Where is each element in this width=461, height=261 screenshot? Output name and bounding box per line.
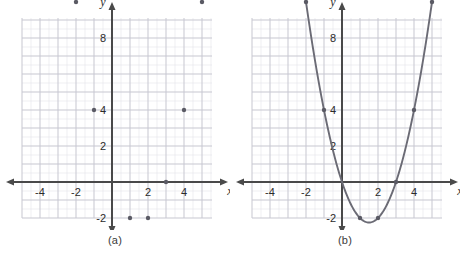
x-tick-label: 4 (411, 186, 417, 198)
data-point-marker (164, 180, 168, 184)
figure-two-panel-scatter-and-parabola: -4-224842-2xy (a) -4-224842-2xy (b) (0, 0, 461, 261)
x-tick-label: 2 (375, 186, 381, 198)
y-tick-label: 4 (100, 104, 106, 116)
x-tick-label: -4 (35, 186, 45, 198)
y-axis-arrow-down-icon (339, 226, 346, 230)
y-tick-label: 4 (330, 104, 336, 116)
y-axis-arrow-up-icon (339, 2, 346, 10)
data-point-marker (322, 108, 326, 112)
x-tick-label: -2 (71, 186, 81, 198)
x-tick-label: -4 (265, 186, 275, 198)
data-point-marker (430, 0, 434, 4)
x-axis-label: x (456, 184, 460, 198)
panel-a-plot: -4-224842-2xy (0, 0, 230, 230)
y-tick-label: 2 (100, 140, 106, 152)
plot-group: -4-224842-2xy (236, 0, 460, 230)
x-tick-label: 4 (181, 186, 187, 198)
data-point-marker (200, 0, 204, 4)
y-axis-label: y (99, 0, 106, 9)
data-point-marker (358, 216, 362, 220)
data-point-marker (182, 108, 186, 112)
x-tick-label: -2 (301, 186, 311, 198)
x-tick-label: 2 (145, 186, 151, 198)
panel-b-caption: (b) (230, 234, 460, 246)
y-tick-label: -2 (326, 212, 336, 224)
y-tick-label: -2 (96, 212, 106, 224)
y-tick-label: 8 (330, 32, 336, 44)
data-point-marker (92, 108, 96, 112)
panel-a-caption: (a) (0, 234, 230, 246)
data-point-marker (304, 0, 308, 4)
plot-group: -4-224842-2xy (6, 0, 230, 230)
data-point-marker (376, 216, 380, 220)
data-point-marker (412, 108, 416, 112)
x-axis-arrow-left-icon (236, 179, 244, 186)
panel-b-plot: -4-224842-2xy (230, 0, 460, 230)
y-axis-label: y (329, 0, 336, 9)
panel-a: -4-224842-2xy (a) (0, 0, 230, 261)
data-point-marker (394, 180, 398, 184)
y-tick-label: 8 (100, 32, 106, 44)
data-point-marker (128, 216, 132, 220)
panel-b: -4-224842-2xy (b) (230, 0, 460, 261)
x-axis-arrow-left-icon (6, 179, 14, 186)
y-axis-arrow-up-icon (109, 2, 116, 10)
y-axis-arrow-down-icon (109, 226, 116, 230)
data-point-marker (74, 0, 78, 4)
data-point-marker (146, 216, 150, 220)
